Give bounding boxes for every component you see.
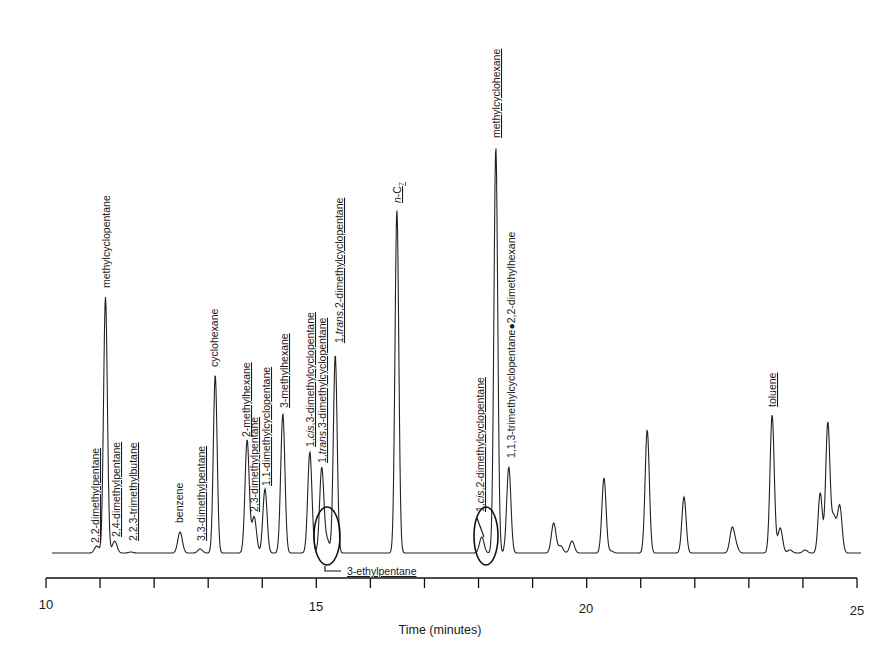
label-n-c7: n-C7 bbox=[391, 182, 405, 203]
label-1-cis-2-dimethylcyclopentane: 1,cis,2-dimethylcyclopentane bbox=[474, 377, 486, 512]
label-1-trans-3-dimethylcyclopentane: 1,trans,3-dimethylcyclopentane bbox=[316, 318, 328, 463]
chromatogram-chart: 10 15 20 25 Time (minutes) 2,2-dimethylp… bbox=[0, 0, 892, 669]
x-axis-label: Time (minutes) bbox=[399, 623, 482, 637]
label-3-methylhexane: 3-methylhexane bbox=[278, 333, 290, 408]
leader-line-3-ethylpentane bbox=[325, 566, 341, 571]
label-cyclohexane: cyclohexane bbox=[208, 308, 220, 367]
annotation-ellipse-1-cis-2 bbox=[474, 507, 498, 565]
tick-label-25: 25 bbox=[850, 603, 864, 618]
label-2-2-3-trimethylbutane: 2,2,3-trimethylbutane bbox=[127, 442, 139, 541]
label-methylcyclohexane: methylcyclohexane bbox=[490, 49, 502, 138]
label-benzene: benzene bbox=[173, 483, 185, 523]
label-3-ethylpentane: 3-ethylpentane bbox=[347, 565, 417, 577]
label-1-cis-3-dimethylcyclopentane: 1,cis,3-dimethylcyclopentane bbox=[304, 312, 316, 447]
label-2-2-dimethylpentane: 2,2-dimethylpentane bbox=[89, 448, 101, 543]
label-toluene: toluene bbox=[766, 372, 778, 407]
label-1-1-dimethylcyclopentane: 1,1-dimethylcyclopentane bbox=[260, 367, 272, 486]
label-2-3-dimethylpentane: 2,3-dimethylpentane bbox=[248, 417, 260, 512]
label-2-4-dimethylpentane: 2,4-dimethylpentane bbox=[110, 442, 122, 537]
label-1-1-3-trimethylcyclopentane-2-2-dimethylhexane: 1,1,3-trimethylcyclopentane●2,2-dimethyl… bbox=[505, 231, 517, 458]
label-1-trans-2-dimethylcyclopentane: 1,trans,2-dimethylcyclopentane bbox=[333, 198, 345, 343]
tick-label-15: 15 bbox=[309, 599, 323, 614]
x-axis: 10 15 20 25 Time (minutes) bbox=[39, 578, 864, 637]
peak-labels: 2,2-dimethylpentane methylcyclopentane 2… bbox=[89, 49, 778, 577]
tick-label-10: 10 bbox=[39, 597, 53, 612]
label-methylcyclopentane: methylcyclopentane bbox=[100, 195, 112, 288]
label-3-3-dimethylpentane: 3,3-dimethylpentane bbox=[195, 446, 207, 541]
leader-line-1-cis-2 bbox=[477, 518, 484, 537]
tick-label-20: 20 bbox=[579, 601, 593, 616]
